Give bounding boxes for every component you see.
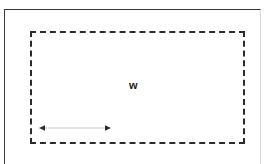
arrow-head-right	[105, 125, 111, 131]
width-measure-arrow	[38, 121, 112, 135]
double-headed-arrow-icon	[38, 121, 112, 135]
geometry-figure: w	[0, 0, 267, 164]
arrow-head-left	[39, 125, 45, 131]
width-label: w	[0, 78, 267, 92]
